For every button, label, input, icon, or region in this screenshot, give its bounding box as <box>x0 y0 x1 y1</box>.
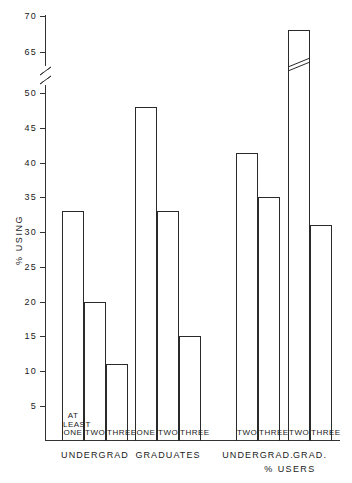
y-tick-label-40: 40 <box>11 159 37 168</box>
bar-2-1: THREE <box>258 197 280 441</box>
y-axis-title: % USING <box>14 215 24 265</box>
y-tick-25 <box>40 267 45 268</box>
y-tick-label-15: 15 <box>11 332 37 341</box>
y-tick-label-50: 50 <box>11 89 37 98</box>
bar-0-2: THREE <box>106 364 128 441</box>
bar-0-0: AT LEAST ONE <box>62 211 84 441</box>
y-tick-20 <box>40 302 45 303</box>
bar-label: TWO <box>237 429 257 438</box>
y-tick-30 <box>40 232 45 233</box>
bar-label: THREE <box>107 429 127 438</box>
y-tick-label-65: 65 <box>11 48 37 57</box>
bar-label: TWO <box>289 429 309 438</box>
y-tick-65 <box>40 52 45 53</box>
y-axis-break-mark <box>38 62 54 88</box>
y-tick-label-45: 45 <box>11 124 37 133</box>
bar-label: ONE <box>136 429 156 438</box>
y-tick-50 <box>40 93 45 94</box>
y-tick-label-5: 5 <box>11 402 37 411</box>
bar-3-0: TWO <box>288 30 310 441</box>
bar-1-0: ONE <box>135 107 157 441</box>
bar-3-1: THREE <box>310 225 332 441</box>
x-axis-caption: % USERS <box>245 464 335 474</box>
y-tick-label-20: 20 <box>11 298 37 307</box>
bar-label: TWO <box>158 429 178 438</box>
bar-label: AT LEAST ONE <box>63 412 83 438</box>
y-tick-label-10: 10 <box>11 367 37 376</box>
bar-2-0: TWO <box>236 153 258 441</box>
group-label-1: GRADUATES <box>123 450 213 460</box>
y-tick-label-35: 35 <box>11 193 37 202</box>
bar-chart-figure: 51015202530354045506570% USINGAT LEAST O… <box>0 0 352 483</box>
y-tick-label-70: 70 <box>11 12 37 21</box>
y-tick-45 <box>40 128 45 129</box>
bar-label: THREE <box>180 429 200 438</box>
bar-label: THREE <box>259 429 279 438</box>
bar-1-2: THREE <box>179 336 201 441</box>
y-tick-10 <box>40 371 45 372</box>
y-tick-5 <box>40 406 45 407</box>
y-tick-35 <box>40 197 45 198</box>
bar-0-1: TWO <box>84 302 106 441</box>
group-label-3: GRAD. <box>265 450 352 460</box>
bar-label: TWO <box>85 429 105 438</box>
y-tick-40 <box>40 163 45 164</box>
y-tick-70 <box>40 16 45 17</box>
y-tick-15 <box>40 336 45 337</box>
bar-1-1: TWO <box>157 211 179 441</box>
bar-label: THREE <box>311 429 331 438</box>
bar-break-mark <box>288 58 310 74</box>
